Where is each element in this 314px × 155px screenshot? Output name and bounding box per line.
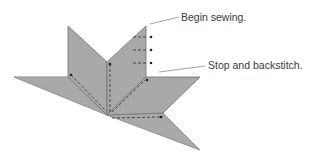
- stop-backstitch-label: Stop and backstitch.: [208, 59, 303, 71]
- leader-lines: [150, 17, 205, 72]
- sewing-diagram: [0, 0, 314, 155]
- fabric-bottom-right-triangle: [107, 113, 200, 150]
- begin-sewing-label: Begin sewing.: [181, 11, 246, 23]
